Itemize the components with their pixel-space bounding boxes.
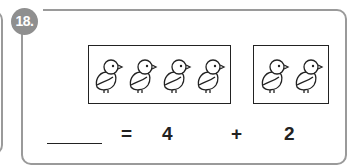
chick-icon — [126, 55, 159, 95]
chick-icon — [160, 55, 193, 95]
chick-icon — [194, 55, 227, 95]
equals-sign: = — [121, 123, 132, 145]
addend-2: 2 — [284, 123, 295, 145]
chick-icon — [92, 55, 125, 95]
chick-group-right — [253, 45, 329, 104]
chick-icon — [258, 55, 291, 95]
chick-group-left — [88, 45, 231, 104]
chick-icon — [292, 55, 325, 95]
previous-problem-frame — [0, 10, 3, 155]
addend-1: 4 — [162, 123, 173, 145]
plus-sign: + — [231, 123, 242, 145]
answer-blank[interactable] — [47, 143, 102, 144]
problem-number-badge: 18. — [11, 8, 38, 35]
